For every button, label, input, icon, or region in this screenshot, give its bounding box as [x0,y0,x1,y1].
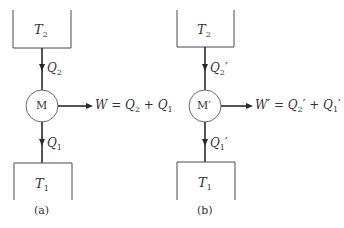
arrow-right-icon [246,103,253,109]
term1-symbol: Q [125,98,135,112]
reservoir-symbol: T [34,22,43,37]
panel-a-graphics [13,10,93,200]
caption-a: (a) [34,205,49,216]
heat-out-label-b: Q1′ [210,137,228,152]
cold-reservoir-label-b: T1 [198,176,212,192]
reservoir-symbol: T [35,176,44,191]
term2-prime: ′ [338,98,341,112]
cold-reservoir-label-a: T1 [35,177,49,193]
work-symbol: W [95,98,107,112]
arrow-down-icon [39,139,45,146]
heat-symbol: Q [47,136,57,150]
reservoir-subscript: 1 [44,184,49,193]
work-equation-b: W′ = Q2′ + Q1′ [255,99,341,114]
reservoir-subscript: 1 [207,183,212,192]
heat-engine-diagram: T2 Q2 M W = Q2 + Q1 Q1 T1 (a) T2 Q2′ M′ … [0,0,344,228]
equals-sign: = [270,98,288,112]
heat-subscript: 1 [57,143,62,152]
term2-symbol: Q [158,98,168,112]
hot-reservoir-label-b: T2 [197,23,211,39]
term2-subscript: 1 [168,105,173,114]
heat-in-label-b: Q2′ [210,62,228,77]
term2-symbol: Q [323,98,333,112]
reservoir-symbol: T [197,22,206,37]
arrow-down-icon [202,139,208,146]
arrow-right-icon [86,103,93,109]
diagram-lines [0,0,344,228]
work-symbol: W′ [255,98,270,112]
panel-b-graphics [177,10,253,200]
plus-sign: + [305,98,323,112]
heat-symbol: Q [210,61,220,75]
caption-b: (b) [197,205,213,216]
reservoir-subscript: 2 [43,30,48,39]
work-equation-a: W = Q2 + Q1 [95,99,173,114]
heat-symbol: Q [210,136,220,150]
arrow-down-icon [39,64,45,71]
heat-in-label-a: Q2 [47,62,62,77]
plus-sign: + [140,98,158,112]
heat-prime: ′ [225,61,228,75]
heat-out-label-a: Q1 [47,137,62,152]
term1-symbol: Q [288,98,298,112]
heat-symbol: Q [47,61,57,75]
machine-label-a: M [36,100,47,111]
reservoir-subscript: 2 [206,30,211,39]
equals-sign: = [107,98,125,112]
heat-subscript: 2 [57,68,62,77]
hot-reservoir-label-a: T2 [34,23,48,39]
machine-label-b: M′ [197,100,211,111]
reservoir-symbol: T [198,175,207,190]
heat-prime: ′ [225,136,228,150]
arrow-down-icon [202,64,208,71]
